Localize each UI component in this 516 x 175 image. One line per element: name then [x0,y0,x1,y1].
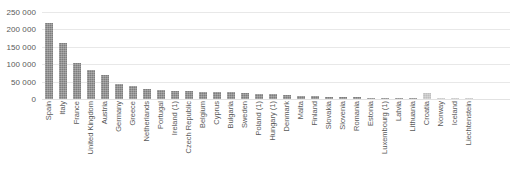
x-axis-tick-label: Liechtenstein [465,101,473,145]
y-axis-tick-label: 150 000 [6,42,36,51]
bar-slot [266,12,280,99]
x-axis-label-slot: Austria [98,101,112,175]
y-axis: 050 000100 000150 000200 000250 000 [0,0,40,99]
bar [213,92,221,99]
x-axis-label-slot: Lithuania [406,101,420,175]
y-axis-tick-label: 100 000 [6,60,36,69]
bar-slot [168,12,182,99]
x-axis-tick-label: Slovenia [339,101,347,130]
bar [395,98,403,99]
bar-slot [98,12,112,99]
bar-slot [294,12,308,99]
x-axis-label-slot: Ireland (1) [168,101,182,175]
x-axis-label-slot: Netherlands [140,101,154,175]
bar-slot [210,12,224,99]
x-axis-label-slot: Greece [126,101,140,175]
bar-slot [378,12,392,99]
bar [115,84,123,99]
bar [325,97,333,99]
x-axis-label-slot: Norway [434,101,448,175]
bar-slot [350,12,364,99]
x-axis-tick-label: Iceland [451,101,459,125]
x-axis-tick-label: Sweden [241,101,249,128]
bar [171,91,179,99]
x-axis-tick-label: France [73,101,81,124]
x-axis-label-slot: Latvia [392,101,406,175]
bar-slot [434,12,448,99]
x-axis-label-slot: Germany [112,101,126,175]
x-axis-label-slot: Belgium [196,101,210,175]
x-axis-label-slot: Italy [56,101,70,175]
bar [423,93,431,99]
bar-slot [70,12,84,99]
x-axis-label-slot: Slovakia [322,101,336,175]
x-axis-tick-label: Czech Republic [185,101,193,154]
bar-slot [196,12,210,99]
x-axis-label-slot: Sweden [238,101,252,175]
bar-slot [126,12,140,99]
x-axis-tick-label: Latvia [395,101,403,121]
x-axis-tick-label: Portugal [157,101,165,129]
bar [465,98,473,99]
x-axis-label-slot: Poland (1) [252,101,266,175]
bar [353,97,361,99]
x-axis-tick-label: Croatia [423,101,431,125]
x-axis-label-slot: Denmark [280,101,294,175]
bar [73,63,81,99]
x-axis-label-slot: Bulgaria [224,101,238,175]
bar-slot [154,12,168,99]
bar [241,93,249,99]
bar-slot [42,12,56,99]
bar-slot [238,12,252,99]
bar-slot [364,12,378,99]
bar-slot [336,12,350,99]
bar-series [42,12,510,99]
bar [437,98,445,99]
x-axis-tick-label: Norway [437,101,445,126]
x-axis-tick-label: Estonia [367,101,375,126]
bar-slot [322,12,336,99]
y-axis-tick-label: 50 000 [11,77,36,86]
x-axis-tick-label: Luxembourg (1) [381,101,389,154]
bar [451,98,459,99]
bar [101,75,109,99]
x-axis-label-slot: Croatia [420,101,434,175]
bar [297,96,305,99]
bar [59,43,67,99]
bar-slot [448,12,462,99]
bar [339,97,347,99]
x-axis-label-slot: Malta [294,101,308,175]
x-axis-tick-label: Austria [101,101,109,124]
x-axis-label-slot: Spain [42,101,56,175]
x-axis-label-slot: Liechtenstein [462,101,476,175]
bar-slot [56,12,70,99]
x-axis-tick-label: Spain [45,101,53,120]
x-axis-label-slot: Slovenia [336,101,350,175]
x-axis-label-slot: France [70,101,84,175]
x-axis-tick-label: Romania [353,101,361,131]
bar-slot [308,12,322,99]
x-axis-tick-label: Slovakia [325,101,333,129]
bar [45,23,53,99]
bar-slot [392,12,406,99]
bar-slot [462,12,476,99]
x-axis-label-slot: Luxembourg (1) [378,101,392,175]
x-axis-label-slot: Portugal [154,101,168,175]
x-axis-tick-label: United Kingdom [87,101,95,154]
bar [367,98,375,99]
x-axis-tick-label: Malta [297,101,305,119]
x-axis-label-slot: United Kingdom [84,101,98,175]
bar [157,90,165,99]
bar-slot [252,12,266,99]
bar-slot [224,12,238,99]
x-axis-tick-label: Germany [115,101,123,132]
bar [87,70,95,99]
x-axis-tick-label: Hungary (1) [269,101,277,141]
x-axis-tick-label: Poland (1) [255,101,263,136]
bar [269,94,277,99]
x-axis-tick-label: Belgium [199,101,207,128]
bar [381,98,389,99]
x-axis-labels: SpainItalyFranceUnited KingdomAustriaGer… [42,101,510,175]
bar-slot [406,12,420,99]
x-axis-tick-label: Finland [311,101,319,126]
